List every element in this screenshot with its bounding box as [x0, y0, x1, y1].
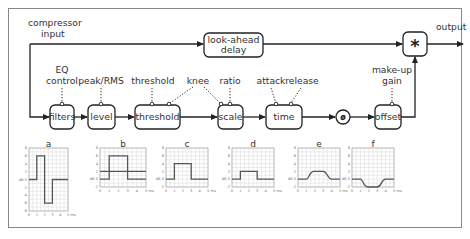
svg-text:2: 2: [43, 213, 45, 217]
svg-text:dB 0: dB 0: [222, 177, 231, 181]
chart-c: c8642dB 0-2012345 ms: [156, 139, 216, 194]
svg-text:1: 1: [239, 189, 241, 193]
svg-text:3: 3: [376, 189, 378, 193]
svg-text:4: 4: [330, 189, 333, 193]
svg-text:2: 2: [248, 189, 250, 193]
svg-text:3: 3: [322, 189, 324, 193]
svg-text:dB 0: dB 0: [19, 178, 28, 182]
eq-label-line1: EQ: [55, 64, 68, 75]
svg-text:3: 3: [256, 189, 258, 193]
svg-text:8: 8: [96, 146, 99, 150]
svg-text:0: 0: [351, 189, 354, 193]
eq-control-port: [60, 102, 64, 106]
ratio-label: ratio: [219, 75, 241, 86]
makeup-label-line2: gain: [382, 75, 402, 86]
chart-f: f8642dB 0-2012345 ms: [342, 139, 402, 194]
svg-text:2: 2: [314, 189, 316, 193]
knee-port-threshold: [167, 102, 171, 106]
waveform-charts: a8642dB 0-2-4-6-8012345 msb8642dB 0-2012…: [19, 139, 402, 218]
svg-text:1: 1: [305, 189, 307, 193]
input-label-line2: input: [41, 28, 65, 39]
chart-a: a8642dB 0-2-4-6-8012345 ms: [19, 139, 76, 218]
svg-text:-2: -2: [23, 186, 27, 190]
svg-text:8: 8: [162, 146, 165, 150]
svg-text:-4: -4: [23, 193, 27, 197]
svg-text:6: 6: [162, 154, 165, 158]
multiplier-symbol: *: [410, 35, 420, 56]
eq-label-line2: control: [46, 75, 78, 86]
svg-text:0: 0: [99, 189, 102, 193]
svg-text:6: 6: [348, 154, 351, 158]
svg-text:8: 8: [228, 146, 231, 150]
svg-text:4: 4: [25, 162, 28, 166]
makeup-gain-port: [390, 102, 394, 106]
delay-label-line2: delay: [221, 44, 247, 55]
svg-text:-2: -2: [346, 185, 350, 189]
svg-text:0: 0: [297, 189, 300, 193]
time-label: time: [273, 111, 294, 122]
peak-rms-port: [99, 102, 103, 106]
db-to-linear-symbol: ø: [340, 113, 346, 122]
svg-text:-2: -2: [292, 185, 296, 189]
offset-label: offset: [375, 111, 402, 122]
chart-e: e8642dB 0-2012345 ms: [288, 139, 348, 194]
svg-text:4: 4: [294, 162, 297, 166]
svg-text:dB 0: dB 0: [90, 177, 99, 181]
svg-text:4: 4: [348, 162, 351, 166]
svg-text:6: 6: [294, 154, 297, 158]
knee-port-scale: [219, 102, 223, 106]
svg-text:4: 4: [384, 189, 387, 193]
threshold-port: [150, 102, 154, 106]
ratio-port: [228, 102, 232, 106]
chart-title: a: [46, 139, 52, 149]
svg-text:2: 2: [162, 170, 164, 174]
svg-text:4: 4: [59, 213, 62, 217]
svg-text:dB 0: dB 0: [288, 177, 297, 181]
threshold-control-label: threshold: [131, 75, 174, 86]
chart-d: d8642dB 0-2012345 ms: [222, 139, 282, 194]
svg-text:8: 8: [25, 146, 28, 150]
output-label: output: [436, 21, 467, 32]
chart-title: d: [250, 139, 256, 149]
filters-label: filters: [49, 111, 76, 122]
svg-text:dB 0: dB 0: [342, 177, 351, 181]
svg-text:dB 0: dB 0: [156, 177, 165, 181]
svg-text:5 ms: 5 ms: [339, 189, 348, 193]
svg-text:4: 4: [264, 189, 267, 193]
svg-text:-6: -6: [23, 201, 27, 205]
svg-text:-2: -2: [94, 185, 98, 189]
svg-text:5 ms: 5 ms: [393, 189, 402, 193]
release-label: release: [285, 75, 319, 86]
makeup-label-line1: make-up: [372, 64, 412, 75]
svg-text:4: 4: [96, 162, 99, 166]
release-port: [289, 102, 293, 106]
svg-text:5 ms: 5 ms: [207, 189, 216, 193]
svg-text:1: 1: [36, 213, 38, 217]
attack-label: attack: [257, 75, 287, 86]
svg-text:1: 1: [173, 189, 175, 193]
svg-text:3: 3: [51, 213, 53, 217]
svg-text:-2: -2: [226, 185, 230, 189]
svg-text:5 ms: 5 ms: [145, 189, 154, 193]
svg-text:1: 1: [108, 189, 110, 193]
svg-text:2: 2: [348, 170, 350, 174]
svg-text:4: 4: [228, 162, 231, 166]
svg-text:5 ms: 5 ms: [273, 189, 282, 193]
svg-text:2: 2: [25, 170, 27, 174]
svg-text:2: 2: [368, 189, 370, 193]
svg-text:6: 6: [228, 154, 231, 158]
svg-text:4: 4: [162, 162, 165, 166]
chart-b: b8642dB 0-2012345 ms: [90, 139, 154, 194]
svg-text:3: 3: [190, 189, 192, 193]
svg-text:2: 2: [228, 170, 230, 174]
knee-label: knee: [187, 75, 210, 86]
svg-text:3: 3: [126, 189, 128, 193]
chart-title: b: [120, 139, 126, 149]
svg-text:0: 0: [231, 189, 234, 193]
compressor-diagram: compressor input look-ahead delay * outp…: [0, 0, 470, 239]
svg-text:4: 4: [198, 189, 201, 193]
svg-text:6: 6: [96, 154, 99, 158]
svg-text:8: 8: [294, 146, 297, 150]
svg-text:2: 2: [117, 189, 119, 193]
svg-text:2: 2: [182, 189, 184, 193]
